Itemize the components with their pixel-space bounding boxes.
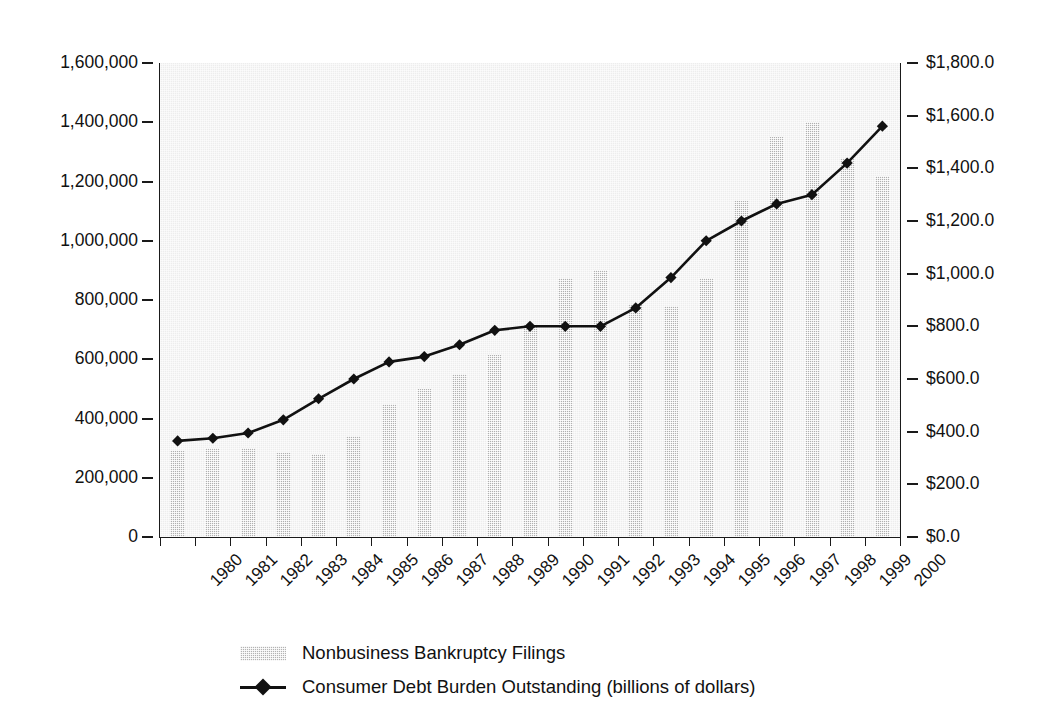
right-tick-label: $1,600.0 <box>926 105 994 126</box>
left-tick-label: 0 <box>18 526 138 547</box>
x-label-1987: 1987 <box>452 550 493 591</box>
left-tick <box>142 536 153 538</box>
right-tick-label: $0.0 <box>926 526 960 547</box>
x-tick <box>865 538 866 546</box>
bar-1989 <box>487 355 502 537</box>
x-label-1984: 1984 <box>347 550 388 591</box>
legend-item-bars: Nonbusiness Bankruptcy Filings <box>0 636 1053 670</box>
bar-1993 <box>628 304 643 537</box>
left-tick-label: 1,600,000 <box>18 52 138 73</box>
right-tick-label: $1,000.0 <box>926 263 994 284</box>
x-label-1997: 1997 <box>805 550 846 591</box>
right-tick <box>907 115 918 117</box>
bar-1995 <box>699 278 714 537</box>
x-tick <box>477 538 478 546</box>
bar-1987 <box>417 389 432 537</box>
x-tick <box>830 538 831 546</box>
chart-legend: Nonbusiness Bankruptcy Filings Consumer … <box>0 636 1053 704</box>
bar-1997 <box>769 137 784 537</box>
right-tick-label: $600.0 <box>926 368 980 389</box>
x-label-1998: 1998 <box>840 550 881 591</box>
right-tick-label: $1,400.0 <box>926 157 994 178</box>
right-tick <box>907 220 918 222</box>
left-tick-label: 800,000 <box>18 289 138 310</box>
legend-line-diamond-icon <box>240 680 286 695</box>
x-label-2000: 2000 <box>910 550 951 591</box>
right-tick <box>907 62 918 64</box>
right-tick <box>907 536 918 538</box>
legend-item-line: Consumer Debt Burden Outstanding (billio… <box>0 670 1053 704</box>
bar-1983 <box>276 453 291 537</box>
x-label-1989: 1989 <box>523 550 564 591</box>
x-label-1993: 1993 <box>664 550 705 591</box>
left-tick <box>142 299 153 301</box>
right-axis-line <box>900 63 901 538</box>
left-tick <box>142 418 153 420</box>
x-axis-line <box>159 537 901 538</box>
left-tick-label: 1,200,000 <box>18 171 138 192</box>
bar-1996 <box>734 201 749 537</box>
left-tick <box>142 477 153 479</box>
x-tick <box>442 538 443 546</box>
x-label-1992: 1992 <box>629 550 670 591</box>
right-tick <box>907 483 918 485</box>
x-tick <box>653 538 654 546</box>
x-tick <box>724 538 725 546</box>
x-tick <box>794 538 795 546</box>
bar-1991 <box>558 278 573 537</box>
left-tick-label: 200,000 <box>18 467 138 488</box>
right-tick-label: $1,200.0 <box>926 210 994 231</box>
right-tick <box>907 378 918 380</box>
x-label-1980: 1980 <box>206 550 247 591</box>
x-tick <box>160 538 161 546</box>
x-tick <box>548 538 549 546</box>
x-tick <box>407 538 408 546</box>
bar-2000 <box>875 176 890 537</box>
x-tick <box>689 538 690 546</box>
chart-figure: 0200,000400,000600,000800,0001,000,0001,… <box>0 0 1053 720</box>
right-tick <box>907 167 918 169</box>
x-label-1981: 1981 <box>241 550 282 591</box>
x-label-1990: 1990 <box>558 550 599 591</box>
left-tick-label: 1,000,000 <box>18 230 138 251</box>
x-tick <box>336 538 337 546</box>
bar-1999 <box>840 158 855 537</box>
left-tick <box>142 121 153 123</box>
x-tick <box>759 538 760 546</box>
bar-1982 <box>241 448 256 537</box>
legend-bar-swatch-icon <box>240 646 286 661</box>
right-tick <box>907 431 918 433</box>
right-tick-label: $400.0 <box>926 421 980 442</box>
bar-1990 <box>523 324 538 537</box>
right-tick-label: $1,800.0 <box>926 52 994 73</box>
x-tick <box>583 538 584 546</box>
left-tick <box>142 240 153 242</box>
left-tick-label: 1,400,000 <box>18 111 138 132</box>
bar-1998 <box>805 122 820 537</box>
x-label-1988: 1988 <box>488 550 529 591</box>
x-label-1983: 1983 <box>311 550 352 591</box>
legend-label-line: Consumer Debt Burden Outstanding (billio… <box>302 676 755 698</box>
x-tick <box>195 538 196 546</box>
bar-1985 <box>346 436 361 537</box>
bar-1988 <box>452 374 467 537</box>
x-label-1996: 1996 <box>770 550 811 591</box>
left-axis-line <box>159 63 160 538</box>
right-tick <box>907 325 918 327</box>
right-tick-label: $800.0 <box>926 315 980 336</box>
right-tick-label: $200.0 <box>926 473 980 494</box>
left-tick <box>142 358 153 360</box>
bar-1984 <box>311 454 326 537</box>
left-tick <box>142 181 153 183</box>
bar-1994 <box>664 306 679 537</box>
x-tick <box>230 538 231 546</box>
x-label-1995: 1995 <box>734 550 775 591</box>
bar-1986 <box>382 404 397 537</box>
bar-1981 <box>205 448 220 537</box>
x-label-1999: 1999 <box>875 550 916 591</box>
x-tick <box>371 538 372 546</box>
x-label-1994: 1994 <box>699 550 740 591</box>
x-tick <box>900 538 901 546</box>
x-label-1985: 1985 <box>382 550 423 591</box>
left-tick-label: 400,000 <box>18 408 138 429</box>
